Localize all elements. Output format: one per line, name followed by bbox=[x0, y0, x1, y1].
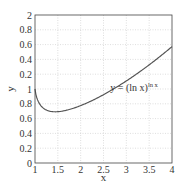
x-tick-label: 4 bbox=[170, 164, 175, 175]
x-axis-label: x bbox=[101, 171, 107, 183]
y-tick-label: 0.4 bbox=[20, 54, 33, 65]
x-tick-label: 1 bbox=[33, 164, 38, 175]
x-tick-label: 3 bbox=[124, 164, 129, 175]
y-axis-ticks: 00.20.40.60.810.20.40.60.82 bbox=[20, 10, 33, 169]
data-curve bbox=[35, 47, 172, 112]
y-tick-label: 1 bbox=[27, 84, 32, 95]
y-tick-label: 0.2 bbox=[20, 69, 33, 80]
equation-base: y = (ln x) bbox=[110, 82, 148, 94]
y-tick-label: 0.6 bbox=[20, 39, 33, 50]
y-tick-label: 0.8 bbox=[20, 24, 33, 35]
y-tick-label: 2 bbox=[27, 10, 32, 21]
y-tick-label: 0.8 bbox=[20, 98, 33, 109]
x-tick-label: 1.5 bbox=[52, 164, 65, 175]
y-tick-label: 0.4 bbox=[20, 128, 33, 139]
y-axis-label: y bbox=[4, 86, 16, 92]
y-tick-label: 0.6 bbox=[20, 113, 33, 124]
y-tick-label: 0 bbox=[27, 158, 32, 169]
curve-equation-label: y = (ln x)ln x bbox=[110, 81, 158, 94]
x-tick-label: 3.5 bbox=[143, 164, 156, 175]
equation-exponent: ln x bbox=[148, 81, 159, 88]
y-tick-label: 0.2 bbox=[20, 143, 33, 154]
x-tick-label: 2 bbox=[78, 164, 83, 175]
line-chart: 11.522.533.54 00.20.40.60.810.20.40.60.8… bbox=[0, 0, 183, 188]
grid-lines bbox=[35, 15, 172, 163]
